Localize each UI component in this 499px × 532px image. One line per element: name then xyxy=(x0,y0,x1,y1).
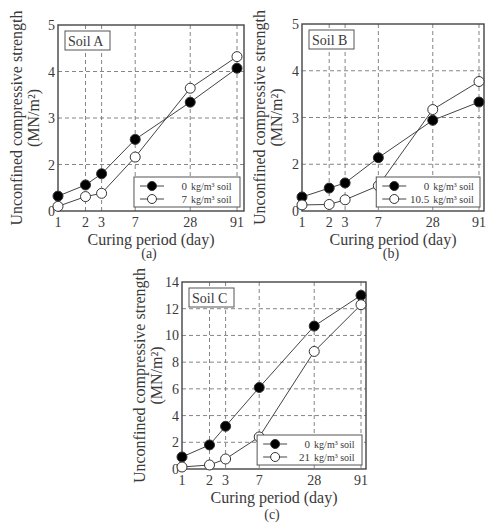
data-point-marker xyxy=(309,321,319,331)
x-axis-title: Curing period (day) xyxy=(210,489,337,507)
data-point-marker xyxy=(221,454,231,464)
y-tick-label: 5 xyxy=(292,17,299,32)
x-tick-label: 91 xyxy=(230,215,244,230)
x-tick-label: 7 xyxy=(256,473,263,488)
x-tick-label: 2 xyxy=(326,215,333,230)
legend-marker-icon xyxy=(390,195,399,204)
legend-unit: kg/m³ soil xyxy=(314,439,355,450)
x-tick-label: 1 xyxy=(299,215,306,230)
data-point-marker xyxy=(205,460,215,470)
y-tick-label: 4 xyxy=(48,65,55,80)
y-axis-title: Unconfined compressive strength xyxy=(251,10,269,225)
data-point-marker xyxy=(130,134,140,144)
legend-amount: 0 xyxy=(424,180,430,192)
data-point-marker xyxy=(474,97,484,107)
legend-unit: kg/m³ soil xyxy=(433,181,474,192)
y-axis-unit: (MN/m²) xyxy=(148,346,166,404)
chart-panel-soil-a: 0234512372891Curing period (day)Unconfin… xyxy=(8,10,244,262)
x-tick-label: 1 xyxy=(55,215,62,230)
data-point-marker xyxy=(232,63,242,73)
x-tick-label: 2 xyxy=(82,215,89,230)
y-tick-label: 3 xyxy=(48,111,55,126)
data-point-marker xyxy=(324,199,334,209)
x-tick-label: 91 xyxy=(472,215,486,230)
y-axis-unit: (MN/m²) xyxy=(25,89,43,147)
x-tick-label: 7 xyxy=(132,215,139,230)
legend-marker-icon xyxy=(147,195,156,204)
y-axis-unit: (MN/m²) xyxy=(268,88,286,146)
x-tick-label: 28 xyxy=(307,473,321,488)
figure: 0234512372891Curing period (day)Unconfin… xyxy=(0,0,499,532)
data-point-marker xyxy=(474,77,484,87)
x-tick-label: 2 xyxy=(206,473,213,488)
legend-amount: 0 xyxy=(305,438,311,450)
soil-title-box: Soil B xyxy=(309,30,354,49)
y-tick-label: 8 xyxy=(172,355,179,370)
y-axis-title: Unconfined compressive strength xyxy=(8,10,26,225)
y-tick-label: 14 xyxy=(165,275,179,290)
y-tick-label: 2 xyxy=(48,158,55,173)
legend: 0kg/m³ soil7kg/m³ soil xyxy=(134,177,240,207)
x-tick-label: 7 xyxy=(375,215,382,230)
legend-marker-icon xyxy=(390,182,399,191)
y-tick-label: 2 xyxy=(292,157,299,172)
data-point-marker xyxy=(177,452,187,462)
panel-label: (a) xyxy=(141,246,157,262)
x-tick-label: 1 xyxy=(179,473,186,488)
figure-canvas: 0234512372891Curing period (day)Unconfin… xyxy=(0,0,499,532)
data-point-marker xyxy=(324,183,334,193)
data-point-marker xyxy=(356,300,366,310)
legend-marker-icon xyxy=(271,440,280,449)
soil-title-box: Soil A xyxy=(65,31,110,50)
legend-unit: kg/m³ soil xyxy=(314,452,355,463)
data-point-marker xyxy=(373,153,383,163)
data-point-marker xyxy=(97,188,107,198)
data-point-marker xyxy=(81,180,91,190)
legend: 0kg/m³ soil21kg/m³ soil xyxy=(257,435,362,465)
legend-amount: 7 xyxy=(181,193,187,205)
y-tick-label: 4 xyxy=(172,409,179,424)
legend: 0kg/m³ soil10.5kg/m³ soil xyxy=(376,177,480,207)
x-tick-label: 28 xyxy=(183,215,197,230)
data-point-marker xyxy=(185,83,195,93)
legend-amount: 0 xyxy=(181,180,187,192)
y-tick-label: 4 xyxy=(292,64,299,79)
soil-title: Soil C xyxy=(192,291,227,306)
legend-amount: 21 xyxy=(299,451,310,463)
data-point-marker xyxy=(254,383,264,393)
y-tick-label: 5 xyxy=(48,18,55,33)
data-point-marker xyxy=(297,200,307,210)
x-tick-label: 3 xyxy=(222,473,229,488)
legend-unit: kg/m³ soil xyxy=(433,194,474,205)
y-tick-label: 3 xyxy=(292,111,299,126)
legend-marker-icon xyxy=(147,182,156,191)
legend-unit: kg/m³ soil xyxy=(191,181,232,192)
legend-marker-icon xyxy=(271,453,280,462)
y-tick-label: 10 xyxy=(165,328,179,343)
panel-label: (b) xyxy=(383,246,400,262)
y-axis-title: Unconfined compressive strength xyxy=(131,268,149,483)
data-point-marker xyxy=(309,346,319,356)
data-point-marker xyxy=(356,290,366,300)
chart-panel-soil-c: 0246810121412372891Curing period (day)Un… xyxy=(131,268,368,523)
data-point-marker xyxy=(205,440,215,450)
legend-unit: kg/m³ soil xyxy=(191,194,232,205)
data-point-marker xyxy=(53,201,63,211)
data-point-marker xyxy=(340,195,350,205)
legend-amount: 10.5 xyxy=(410,193,430,205)
x-tick-label: 3 xyxy=(98,215,105,230)
data-point-marker xyxy=(428,115,438,125)
soil-title-box: Soil C xyxy=(189,288,234,307)
y-tick-label: 12 xyxy=(165,302,179,317)
data-point-marker xyxy=(340,178,350,188)
data-point-marker xyxy=(81,192,91,202)
data-point-marker xyxy=(232,52,242,62)
chart-panel-soil-b: 0234512372891Curing period (day)Unconfin… xyxy=(251,10,486,262)
soil-title: Soil B xyxy=(312,33,347,48)
x-tick-label: 3 xyxy=(342,215,349,230)
x-tick-label: 91 xyxy=(354,473,368,488)
x-tick-label: 28 xyxy=(426,215,440,230)
data-point-marker xyxy=(130,152,140,162)
data-point-marker xyxy=(221,421,231,431)
panel-label: (c) xyxy=(264,507,280,523)
